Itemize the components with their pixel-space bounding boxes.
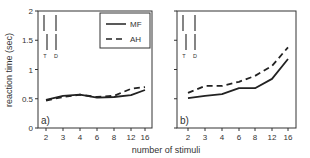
x-tick-label: 12 [268, 133, 277, 142]
y-axis-label: reaction time (sec) [4, 33, 14, 107]
t-marker-label: T [182, 53, 186, 59]
x-tick-label: 16 [284, 133, 293, 142]
x-tick-label: 6 [237, 133, 242, 142]
t-marker-label: T [43, 53, 47, 59]
x-tick-label: 8 [112, 133, 117, 142]
y-tick-label: 2 [29, 7, 34, 16]
y-tick-label: 1 [29, 66, 34, 75]
legend-label-ah: AH [130, 35, 141, 44]
series-line-ah [188, 47, 288, 93]
y-tick-label: 0.5 [22, 95, 34, 104]
chart-figure: reaction time (sec) number of stimuli 00… [0, 0, 310, 158]
x-tick-label: 4 [78, 133, 83, 142]
x-tick-label: 8 [253, 133, 258, 142]
panel-a: 00.511.52234681216TDa)MFAH [22, 7, 152, 142]
legend: MFAH [100, 13, 150, 48]
d-marker-label: D [193, 53, 197, 59]
panel-b: 234681216TDb) [174, 11, 296, 142]
x-tick-label: 4 [220, 133, 225, 142]
x-tick-label: 12 [127, 133, 136, 142]
d-marker-label: D [54, 53, 58, 59]
series-line-ah [46, 87, 145, 100]
series-line-mf [46, 90, 145, 100]
y-tick-label: 1.5 [22, 36, 34, 45]
y-tick-label: 0 [29, 124, 34, 133]
legend-box [100, 13, 150, 48]
x-tick-label: 16 [141, 133, 150, 142]
x-tick-label: 2 [186, 133, 191, 142]
x-tick-label: 3 [61, 133, 66, 142]
panel-label: b) [180, 115, 189, 126]
x-tick-label: 6 [95, 133, 100, 142]
panel-label: a) [41, 115, 50, 126]
legend-label-mf: MF [130, 20, 142, 29]
x-axis-label: number of stimuli [132, 145, 201, 155]
x-tick-label: 3 [203, 133, 208, 142]
x-tick-label: 2 [44, 133, 49, 142]
